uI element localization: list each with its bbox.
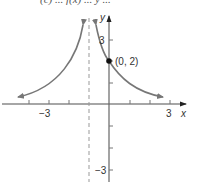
- point-label: (0, 2): [115, 56, 138, 67]
- y-tick-label-3: 3: [99, 35, 105, 46]
- curve-left-branch: [18, 25, 83, 97]
- x-tick-label-neg3: −3: [39, 108, 51, 119]
- x-tick-label-3: 3: [166, 108, 172, 119]
- x-axis-label: x: [180, 108, 187, 119]
- graph: y x 3 (0, 2) −3 3 −3: [0, 0, 198, 182]
- y-axis-label: y: [99, 12, 106, 23]
- point-0-2: [106, 58, 112, 64]
- y-tick-label-neg3: −3: [95, 165, 107, 176]
